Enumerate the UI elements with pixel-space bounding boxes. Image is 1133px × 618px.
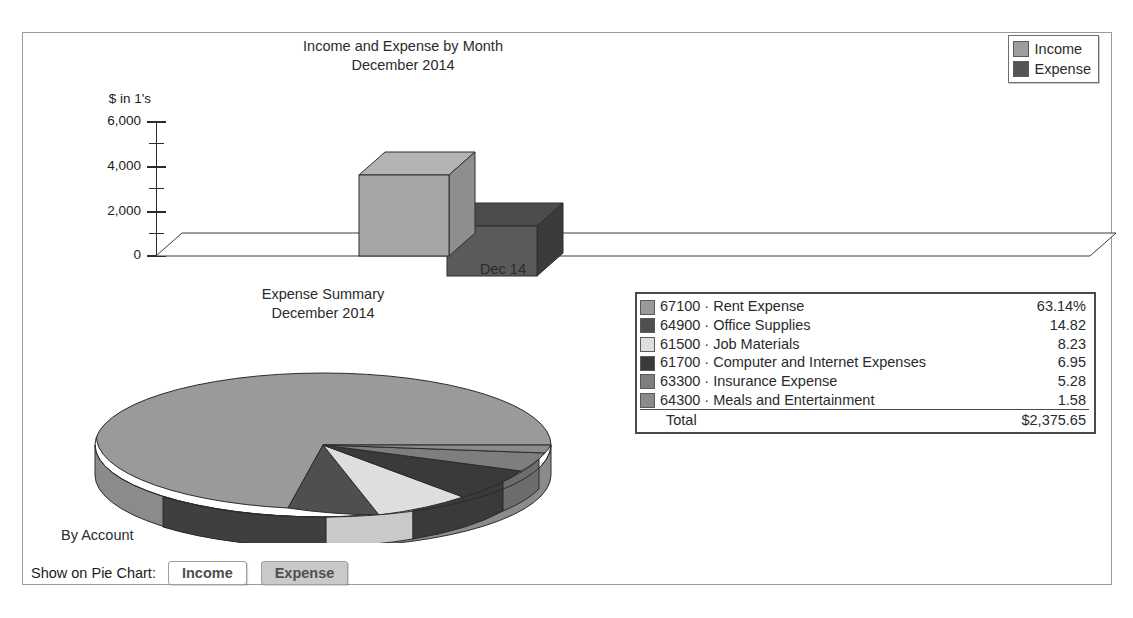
bar-chart-title: Income and Expense by Month December 201… [23,37,783,75]
pie-chart-title-line2: December 2014 [158,304,488,323]
pie-chart-title: Expense Summary December 2014 [158,285,488,323]
table-row-total: Total $2,375.65 [640,410,1089,430]
pie-swatch-2 [640,337,655,352]
pie-chart [83,363,563,547]
pie-legend-rows: 67100 · Rent Expense 63.14% 64900 · Offi… [640,297,1089,429]
legend-swatch-cell [640,372,660,391]
table-row[interactable]: 64300 · Meals and Entertainment 1.58 [640,390,1089,409]
pie-legend-account-0: 67100 · Rent Expense [660,297,1002,316]
pie-swatch-4 [640,374,655,389]
show-income-button[interactable]: Income [168,561,247,585]
legend-swatch-cell [640,353,660,372]
y-label-2000: 2,000 [53,203,141,218]
y-tick-3000 [149,188,164,189]
pie-legend-value-4: 5.28 [1002,372,1089,391]
pie-legend-total-label: Total [660,410,1002,430]
legend-swatch-cell [640,334,660,353]
bar-chart-title-line2: December 2014 [23,56,783,75]
pie-legend-account-3: 61700 · Computer and Internet Expenses [660,353,1002,372]
pie-legend-value-3: 6.95 [1002,353,1089,372]
table-row[interactable]: 64900 · Office Supplies 14.82 [640,316,1089,335]
pie-swatch-0 [640,300,655,315]
pie-legend-value-1: 14.82 [1002,316,1089,335]
pie-legend-account-5: 64300 · Meals and Entertainment [660,390,1002,409]
table-row[interactable]: 67100 · Rent Expense 63.14% [640,297,1089,316]
legend-swatch-cell [640,316,660,335]
legend-swatch-cell [640,297,660,316]
legend-label-income: Income [1035,41,1083,57]
show-expense-button[interactable]: Expense [261,561,349,585]
show-on-pie-chart-label: Show on Pie Chart: [31,565,156,581]
y-tick-6000 [147,121,166,123]
bar-chart: Income and Expense by Month December 201… [23,33,1111,278]
pie-legend-total-value: $2,375.65 [1002,410,1089,430]
x-axis-category-dec14: Dec 14 [423,261,583,277]
y-axis-unit-label: $ in 1's [59,91,151,106]
y-tick-4000 [147,166,166,168]
y-label-6000: 6,000 [53,113,141,128]
legend-swatch-cell [640,390,660,409]
pie-chart-footer-label: By Account [61,527,134,543]
bar-chart-title-line1: Income and Expense by Month [23,37,783,56]
pie-svg [83,363,563,543]
bar-income [359,152,449,256]
pie-swatch-1 [640,318,655,333]
table-row[interactable]: 63300 · Insurance Expense 5.28 [640,372,1089,391]
bar-chart-legend: Income Expense [1008,35,1099,83]
pie-chart-controls: Show on Pie Chart: Income Expense [31,561,362,585]
table-row[interactable]: 61700 · Computer and Internet Expenses 6… [640,353,1089,372]
total-swatch-spacer [640,410,660,430]
pie-legend-value-0: 63.14% [1002,297,1089,316]
legend-swatch-expense [1013,61,1029,77]
pie-legend-value-2: 8.23 [1002,334,1089,353]
pie-legend-account-4: 63300 · Insurance Expense [660,372,1002,391]
y-label-0: 0 [53,247,141,262]
pie-legend-account-2: 61500 · Job Materials [660,334,1002,353]
pie-legend-value-5: 1.58 [1002,390,1089,409]
y-label-4000: 4,000 [53,158,141,173]
legend-item-income: Income [1013,39,1091,59]
y-tick-2000 [147,211,166,213]
legend-label-expense: Expense [1035,61,1091,77]
table-row[interactable]: 61500 · Job Materials 8.23 [640,334,1089,353]
pie-legend-account-1: 64900 · Office Supplies [660,316,1002,335]
pie-swatch-5 [640,393,655,408]
legend-item-expense: Expense [1013,59,1091,79]
y-tick-5000 [149,143,164,144]
pie-legend-table: 67100 · Rent Expense 63.14% 64900 · Offi… [635,292,1096,434]
pie-chart-title-line1: Expense Summary [158,285,488,304]
report-panel: Income and Expense by Month December 201… [22,32,1112,585]
pie-swatch-3 [640,356,655,371]
legend-swatch-income [1013,41,1029,57]
